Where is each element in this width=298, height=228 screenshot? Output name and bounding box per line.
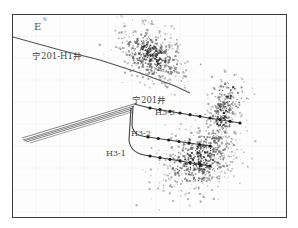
map-plot-area <box>0 0 298 228</box>
well-fan-line-3 <box>24 108 133 141</box>
grid-lines <box>13 15 286 217</box>
microseismic-event-map: E N 宁201-H1井 宁201井 H3-3 H3-2 H3-1 <box>0 0 298 228</box>
compass-east-label: E <box>34 21 41 32</box>
well-label-ning201: 宁201井 <box>132 96 166 105</box>
well-fan-line-2 <box>23 106 134 140</box>
well-trajectory-ning201-h1 <box>13 37 190 93</box>
compass-north-label: N <box>43 16 47 22</box>
well-fan-line-4 <box>26 110 132 142</box>
h3-events-main <box>136 106 257 211</box>
well-label-h3-1: H3-1 <box>106 150 126 158</box>
well-label-ning201-h1: 宁201-H1井 <box>32 52 82 61</box>
well-fan-line-1 <box>22 104 134 138</box>
well-label-h3-2: H3-2 <box>131 130 151 138</box>
well-fan-line-5 <box>30 112 132 143</box>
h1-events <box>99 15 202 95</box>
compass: E N <box>34 18 50 34</box>
well-label-h3-3: H3-3 <box>155 109 175 117</box>
